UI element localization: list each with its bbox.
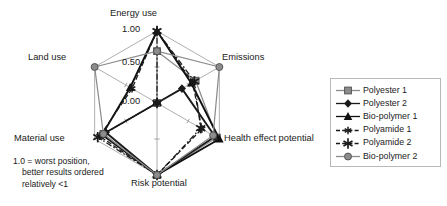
chart-legend: Polyester 1 Polyester 2 Bio-polymer 1 Po… bbox=[330, 78, 441, 167]
legend-item-bio-polymer-2[interactable]: Bio-polymer 2 bbox=[335, 149, 436, 162]
legend-item-polyester-1[interactable]: Polyester 1 bbox=[335, 83, 436, 96]
radar-tick bbox=[125, 83, 128, 88]
legend-label: Bio-polymer 2 bbox=[361, 151, 417, 161]
axis-label-emissions: Emissions bbox=[222, 52, 264, 63]
legend-item-polyamide-1[interactable]: Polyamide 1 bbox=[335, 123, 436, 136]
legend-marker-diamond-icon bbox=[335, 96, 361, 109]
tick-label-0-00: 0.00 bbox=[122, 96, 140, 106]
data-point-diamond bbox=[344, 99, 352, 108]
legend-item-polyester-2[interactable]: Polyester 2 bbox=[335, 96, 436, 109]
chart-note-line-1: 1.0 = worst position, bbox=[13, 156, 90, 166]
legend-label: Bio-polymer 1 bbox=[361, 111, 417, 121]
data-point-circle bbox=[216, 64, 223, 71]
legend-label: Polyester 2 bbox=[361, 98, 407, 108]
legend-label: Polyester 1 bbox=[361, 85, 407, 95]
data-point-circle bbox=[154, 48, 161, 55]
legend-marker-triangle-icon bbox=[335, 109, 361, 122]
chart-plot-area: Energy use Emissions Health effect poten… bbox=[0, 0, 320, 206]
data-point-circle bbox=[210, 132, 217, 139]
radar-tick bbox=[187, 119, 190, 124]
legend-marker-square-icon bbox=[335, 83, 361, 96]
data-point-circle bbox=[100, 130, 107, 137]
tick-label-0-50: 0.50 bbox=[122, 57, 140, 67]
axis-label-land-use: Land use bbox=[28, 52, 66, 63]
legend-item-bio-polymer-1[interactable]: Bio-polymer 1 bbox=[335, 109, 436, 122]
data-point-circle bbox=[345, 153, 352, 160]
legend-label: Polyamide 1 bbox=[361, 124, 411, 134]
data-point-circle bbox=[91, 64, 98, 71]
radar-chart-figure: Energy use Emissions Health effect poten… bbox=[0, 0, 447, 206]
legend-marker-star-small-icon bbox=[335, 123, 361, 136]
tick-label-1-00: 1.00 bbox=[122, 24, 140, 34]
legend-marker-circle-icon bbox=[335, 149, 361, 162]
legend-marker-star-large-icon bbox=[335, 136, 361, 149]
axis-label-material-use: Material use bbox=[14, 133, 65, 144]
axis-label-health-effect-potential: Health effect potential bbox=[224, 133, 314, 144]
legend-item-polyamide-2[interactable]: Polyamide 2 bbox=[335, 136, 436, 149]
chart-note-line-3: relatively <1 bbox=[13, 179, 163, 190]
chart-note: 1.0 = worst position, better results ord… bbox=[13, 156, 163, 190]
chart-note-line-2: better results ordered bbox=[13, 167, 163, 178]
data-point-square bbox=[345, 87, 352, 94]
axis-label-energy-use: Energy use bbox=[110, 8, 157, 19]
legend-label: Polyamide 2 bbox=[361, 137, 411, 147]
